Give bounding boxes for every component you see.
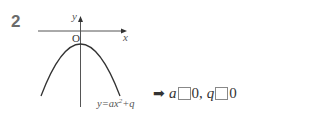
value-a: 0 [192,85,200,102]
value-q: 0 [229,85,237,102]
y-axis-arrow-icon [78,16,83,22]
answer-row: ➡ a 0 , q 0 [153,85,237,102]
y-axis-label: y [71,10,77,22]
variable-a: a [169,85,177,102]
origin-label: O [72,32,80,44]
x-axis-label: x [122,31,128,43]
answer-box-q[interactable] [215,87,228,100]
arrow-right-icon: ➡ [153,85,165,102]
answer-box-a[interactable] [178,87,191,100]
separator: , [199,85,203,102]
curve-label: y=ax2+q [96,97,135,109]
variable-q: q [207,85,215,102]
